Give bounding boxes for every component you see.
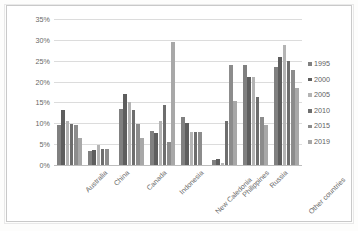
bar xyxy=(66,121,70,165)
bar xyxy=(194,132,198,165)
legend-swatch xyxy=(308,140,312,144)
legend-item: 2010 xyxy=(308,107,330,115)
bar-groups xyxy=(54,19,302,165)
bar xyxy=(88,151,92,165)
bar xyxy=(233,101,237,165)
legend-item: 2015 xyxy=(308,122,330,130)
legend-item: 1995 xyxy=(308,60,330,68)
y-axis-tick-label: 0% xyxy=(40,161,50,170)
bar xyxy=(132,110,136,165)
legend-item: 2000 xyxy=(308,76,330,84)
bar xyxy=(252,77,256,165)
bar xyxy=(171,42,175,165)
bar xyxy=(274,67,278,165)
bar xyxy=(283,45,287,165)
x-axis-tick-label: Russia xyxy=(269,169,290,190)
x-axis-tick-label: Australia xyxy=(84,169,109,194)
bar xyxy=(185,123,189,165)
y-axis-title-line-1: Annual nickel production xyxy=(9,0,18,18)
legend-swatch xyxy=(308,78,312,82)
bar xyxy=(154,133,158,165)
legend-item: 2019 xyxy=(308,138,330,146)
bar-group xyxy=(119,19,145,165)
bar-group xyxy=(243,19,269,165)
bar xyxy=(92,150,96,165)
bar xyxy=(278,57,282,165)
y-axis-tick-label: 15% xyxy=(36,98,50,107)
bar xyxy=(150,131,154,165)
legend-label: 2019 xyxy=(314,138,330,146)
legend-swatch xyxy=(308,109,312,113)
x-axis-tick-label: China xyxy=(113,169,132,188)
bar xyxy=(97,145,101,165)
bar xyxy=(181,117,185,165)
bar-group xyxy=(181,19,207,165)
bar xyxy=(243,65,247,165)
bar-group xyxy=(212,19,238,165)
y-axis-tick-label: 25% xyxy=(36,56,50,65)
bar xyxy=(291,70,295,165)
y-axis-tick-label: 20% xyxy=(36,77,50,86)
bar xyxy=(295,88,299,165)
bar xyxy=(247,77,251,165)
bar xyxy=(256,97,260,165)
legend-label: 2000 xyxy=(314,76,330,84)
bar xyxy=(78,138,82,165)
x-axis-tick-label: Canada xyxy=(146,169,169,192)
bar xyxy=(101,149,105,165)
bar xyxy=(190,132,194,165)
bar xyxy=(123,94,127,165)
bar xyxy=(70,124,74,165)
y-axis-tick-label: 10% xyxy=(36,119,50,128)
bar xyxy=(216,159,220,165)
chart-screenshot: Annual nickel production (metric tons) 0… xyxy=(0,0,358,231)
bar xyxy=(167,142,171,165)
bar xyxy=(229,65,233,165)
bar xyxy=(198,132,202,165)
bar xyxy=(105,149,109,165)
y-axis-tick-label: 35% xyxy=(36,15,50,24)
bar xyxy=(140,138,144,165)
y-axis-tick-label: 5% xyxy=(40,140,50,149)
bar-group xyxy=(57,19,83,165)
bar xyxy=(221,163,225,166)
bar xyxy=(74,125,78,165)
x-axis-labels: AustraliaChinaCanadaIndonesiaNew Caledon… xyxy=(54,167,302,225)
bar xyxy=(287,61,291,165)
legend-label: 2005 xyxy=(314,91,330,99)
bar xyxy=(128,102,132,165)
bar xyxy=(159,121,163,165)
x-axis-line xyxy=(54,165,302,166)
bar xyxy=(212,160,216,165)
legend-swatch xyxy=(308,62,312,66)
bar xyxy=(57,125,61,165)
bar xyxy=(225,121,229,165)
bar xyxy=(260,117,264,165)
legend-label: 2010 xyxy=(314,107,330,115)
bar xyxy=(163,105,167,165)
legend-swatch xyxy=(308,93,312,97)
bar-group xyxy=(150,19,176,165)
legend-swatch xyxy=(308,125,312,129)
legend-label: 2015 xyxy=(314,122,330,130)
bar xyxy=(264,125,268,165)
bar xyxy=(119,109,123,165)
bar-group xyxy=(274,19,300,165)
bar xyxy=(136,124,140,165)
y-axis-title-line-2: (metric tons) xyxy=(18,0,27,18)
chart-legend: 199520002005201020152019 xyxy=(308,60,330,146)
y-axis-title: Annual nickel production (metric tons) xyxy=(9,0,31,18)
legend-item: 2005 xyxy=(308,91,330,99)
legend-label: 1995 xyxy=(314,60,330,68)
plot-area: 0%5%10%15%20%25%30%35% xyxy=(54,19,302,165)
bar xyxy=(61,110,65,165)
y-axis-tick-label: 30% xyxy=(36,35,50,44)
x-axis-tick-label: Indonesia xyxy=(178,169,205,196)
bar-group xyxy=(88,19,114,165)
